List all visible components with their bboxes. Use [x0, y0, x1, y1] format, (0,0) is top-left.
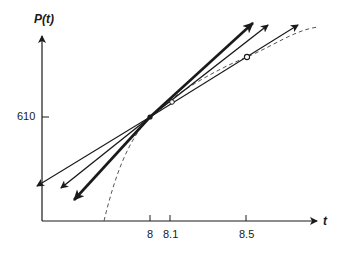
- y-tick-label-610: 610: [17, 110, 35, 122]
- secant-line-8-8.1: [150, 25, 268, 117]
- secant-line-8-8.1-back: [61, 117, 150, 188]
- x-tick-label-8: 8: [147, 228, 153, 240]
- tangent-line-back: [74, 117, 150, 200]
- tangent-secant-diagram: [0, 0, 345, 258]
- secant-point-8.5-circle: [244, 54, 249, 59]
- x-tick-label-8.1: 8.1: [163, 228, 178, 240]
- secant-line-8-8.5-back: [37, 117, 150, 186]
- curve-P: [104, 27, 318, 221]
- tangent-line: [150, 23, 253, 117]
- y-axis-label: P(t): [34, 12, 54, 26]
- x-tick-label-8.5: 8.5: [239, 228, 254, 240]
- secant-point-8.1-circle: [170, 100, 175, 105]
- x-axis-label: t: [323, 214, 327, 228]
- point-of-tangency-dot: [147, 114, 152, 119]
